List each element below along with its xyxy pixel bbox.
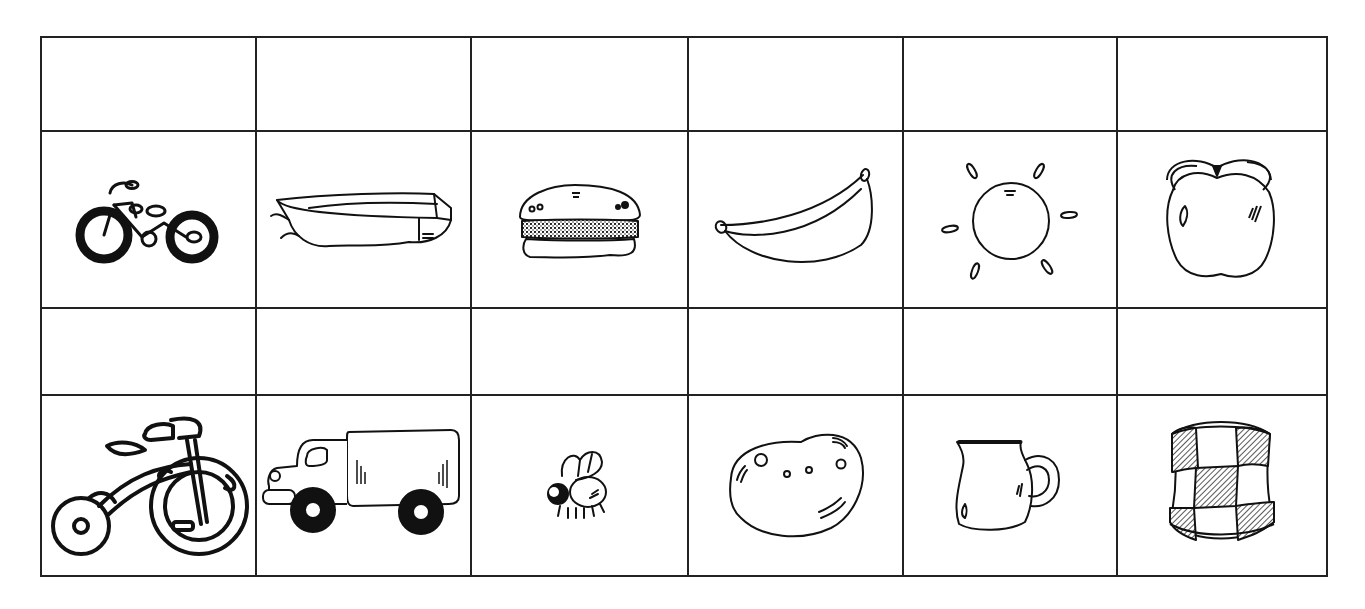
tricycle-icon xyxy=(49,406,249,566)
picture-cell-jug: jug xyxy=(904,396,1118,575)
answer-box-1-1[interactable] xyxy=(42,38,257,132)
bicycle-icon xyxy=(74,175,224,265)
answer-box-2-2[interactable] xyxy=(257,309,472,396)
sun-icon xyxy=(935,155,1085,285)
answer-box-1-6[interactable] xyxy=(1118,38,1326,132)
fly-icon xyxy=(540,446,620,526)
banana-icon xyxy=(711,165,881,275)
picture-cell-bicycle: bicycle xyxy=(42,132,257,309)
jug-icon xyxy=(953,436,1068,536)
answer-box-2-6[interactable] xyxy=(1118,309,1326,396)
answer-box-1-2[interactable] xyxy=(257,38,472,132)
picture-cell-truck: truck xyxy=(257,396,472,575)
answer-box-1-5[interactable] xyxy=(904,38,1118,132)
picture-cell-drum: checkered drum xyxy=(1118,396,1326,575)
picture-cell-fly: fly xyxy=(472,396,689,575)
picture-cell-hamburger: hamburger xyxy=(472,132,689,309)
picture-cell-potato: potato xyxy=(689,396,904,575)
drum-icon xyxy=(1166,416,1278,556)
answer-box-2-1[interactable] xyxy=(42,309,257,396)
answer-box-2-4[interactable] xyxy=(689,309,904,396)
truck-icon xyxy=(261,426,466,546)
picture-cell-tricycle: tricycle xyxy=(42,396,257,575)
answer-box-1-4[interactable] xyxy=(689,38,904,132)
worksheet-grid: bicycle boat xyxy=(40,36,1328,577)
potato-icon xyxy=(721,428,871,543)
answer-box-2-3[interactable] xyxy=(472,309,689,396)
picture-cell-apple: apple xyxy=(1118,132,1326,309)
hamburger-icon xyxy=(510,175,650,265)
answer-box-2-5[interactable] xyxy=(904,309,1118,396)
picture-cell-sun: sun xyxy=(904,132,1118,309)
picture-cell-banana: banana xyxy=(689,132,904,309)
answer-box-1-3[interactable] xyxy=(472,38,689,132)
apple-icon xyxy=(1157,150,1287,290)
boat-icon xyxy=(269,180,459,260)
picture-cell-boat: boat xyxy=(257,132,472,309)
